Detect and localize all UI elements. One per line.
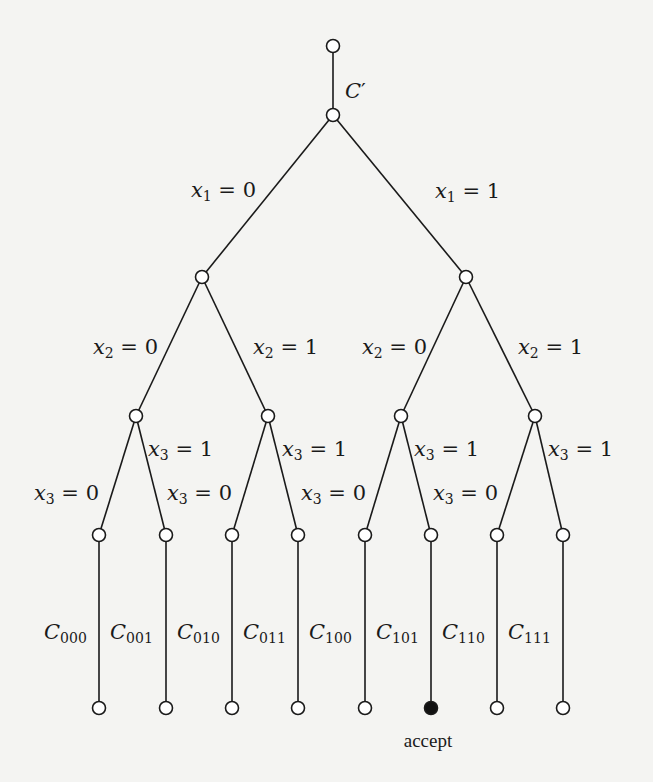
branch-end-node-111	[557, 529, 570, 542]
branch-end-node-011	[292, 529, 305, 542]
leaf-edge-label-011: C011	[243, 620, 286, 646]
edge-labels: C′x1 = 0x1 = 1x2 = 0x2 = 1x2 = 0x2 = 1x3…	[34, 79, 613, 646]
leaf-node-011	[292, 702, 305, 715]
branch-end-node-110	[491, 529, 504, 542]
edge-x3-1	[136, 416, 166, 535]
edge-label-x1-0: x1 = 0	[191, 178, 256, 204]
branch-end-node-000	[93, 529, 106, 542]
edge-label-x2-0: x2 = 0	[362, 335, 427, 361]
edge-label-x3-0: x3 = 0	[167, 481, 232, 507]
leaf-node-000	[93, 702, 106, 715]
root-node	[327, 40, 340, 53]
edge-label-x3-1: x3 = 1	[548, 437, 613, 463]
decision-node-x3-2	[395, 410, 408, 423]
branch-end-node-010	[226, 529, 239, 542]
tree-nodes	[93, 40, 570, 715]
decision-node-x1	[327, 109, 340, 122]
leaf-edge-label-101: C101	[376, 620, 419, 646]
edge-label-x2-1: x2 = 1	[253, 335, 318, 361]
edge-label-x3-0: x3 = 0	[34, 481, 99, 507]
decision-node-x3-1	[262, 410, 275, 423]
leaf-node-111	[557, 702, 570, 715]
edge-label-x3-0: x3 = 0	[433, 481, 498, 507]
leaf-edge-label-001: C001	[110, 620, 153, 646]
edge-x3-0	[497, 416, 535, 535]
edge-label-x2-1: x2 = 1	[518, 335, 583, 361]
tree-edges	[99, 46, 563, 708]
leaf-edge-label-110: C110	[442, 620, 485, 646]
branch-end-node-001	[160, 529, 173, 542]
leaf-node-110	[491, 702, 504, 715]
leaf-edge-label-000: C000	[44, 620, 87, 646]
edge-x3-0	[99, 416, 136, 535]
accept-node	[425, 702, 438, 715]
decision-node-x3-3	[529, 410, 542, 423]
edge-label-x3-1: x3 = 1	[414, 437, 479, 463]
decision-node-x3-0	[130, 410, 143, 423]
leaf-node-001	[160, 702, 173, 715]
edge-x3-1	[268, 416, 298, 535]
branch-end-node-100	[359, 529, 372, 542]
edge-x3-0	[365, 416, 401, 535]
leaf-node-010	[226, 702, 239, 715]
decision-tree-diagram: C′x1 = 0x1 = 1x2 = 0x2 = 1x2 = 0x2 = 1x3…	[0, 0, 653, 782]
branch-end-node-101	[425, 529, 438, 542]
edge-label-x3-1: x3 = 1	[148, 437, 213, 463]
leaf-edge-label-100: C100	[309, 620, 352, 646]
leaf-node-100	[359, 702, 372, 715]
edge-label-x2-0: x2 = 0	[93, 335, 158, 361]
edge-label-x3-1: x3 = 1	[282, 437, 347, 463]
edge-x3-1	[535, 416, 563, 535]
root-edge-label: C′	[345, 79, 366, 103]
edge-x3-0	[232, 416, 268, 535]
edge-x3-1	[401, 416, 431, 535]
edge-label-x3-0: x3 = 0	[301, 481, 366, 507]
leaf-edge-label-010: C010	[177, 620, 220, 646]
accept-label: accept	[404, 730, 453, 751]
decision-node-x2-1	[460, 271, 473, 284]
decision-node-x2-0	[196, 271, 209, 284]
leaf-edge-label-111: C111	[508, 620, 551, 646]
edge-label-x1-1: x1 = 1	[435, 179, 500, 205]
